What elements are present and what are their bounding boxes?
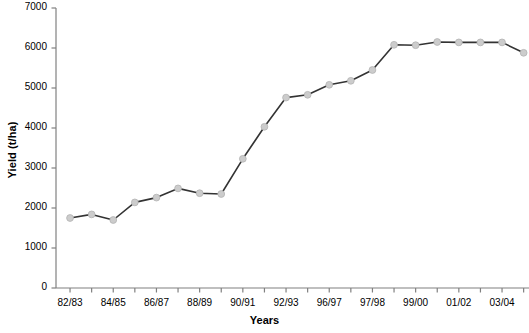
y-axis-tick-label: 7000 [0, 1, 47, 12]
y-axis-tick-label: 6000 [0, 41, 47, 52]
data-point-marker [455, 39, 462, 46]
y-axis-tick-label: 3000 [0, 161, 47, 172]
data-point-marker [412, 42, 419, 49]
data-point-marker [261, 123, 268, 130]
yield-line-chart: Yield (t/ha) Years 010002000300040005000… [0, 0, 529, 333]
data-point-marker [391, 41, 398, 48]
x-axis-tick-label: 03/04 [477, 297, 527, 308]
data-point-marker [67, 215, 74, 222]
data-point-marker [175, 185, 182, 192]
y-axis-tick-label: 1000 [0, 241, 47, 252]
data-point-marker [239, 155, 246, 162]
data-point-marker [434, 39, 441, 46]
data-point-marker [369, 67, 376, 74]
y-axis-tick-label: 2000 [0, 201, 47, 212]
data-point-marker [499, 39, 506, 46]
y-axis-tick-label: 5000 [0, 81, 47, 92]
data-point-marker [88, 211, 95, 218]
data-point-marker [283, 94, 290, 101]
y-axis-tick-label: 4000 [0, 121, 47, 132]
data-point-marker [520, 49, 527, 56]
data-point-marker [196, 190, 203, 197]
data-series-line [70, 42, 524, 220]
data-point-marker [347, 77, 354, 84]
data-point-marker [304, 91, 311, 98]
data-point-marker [153, 194, 160, 201]
chart-plot-area [0, 0, 529, 333]
data-point-marker [326, 81, 333, 88]
y-axis-tick-label: 0 [0, 281, 47, 292]
data-point-marker [218, 191, 225, 198]
data-point-marker [131, 199, 138, 206]
data-point-marker [110, 217, 117, 224]
data-point-marker [477, 39, 484, 46]
x-axis-label: Years [0, 314, 529, 326]
